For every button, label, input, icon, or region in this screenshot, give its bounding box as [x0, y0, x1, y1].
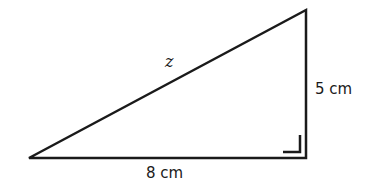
right-angle-marker: [283, 135, 300, 152]
triangle-shape: [29, 10, 306, 158]
vertical-side-label: 5 cm: [315, 80, 352, 98]
horizontal-side-label: 8 cm: [146, 164, 183, 182]
hypotenuse-label: z: [165, 52, 173, 71]
